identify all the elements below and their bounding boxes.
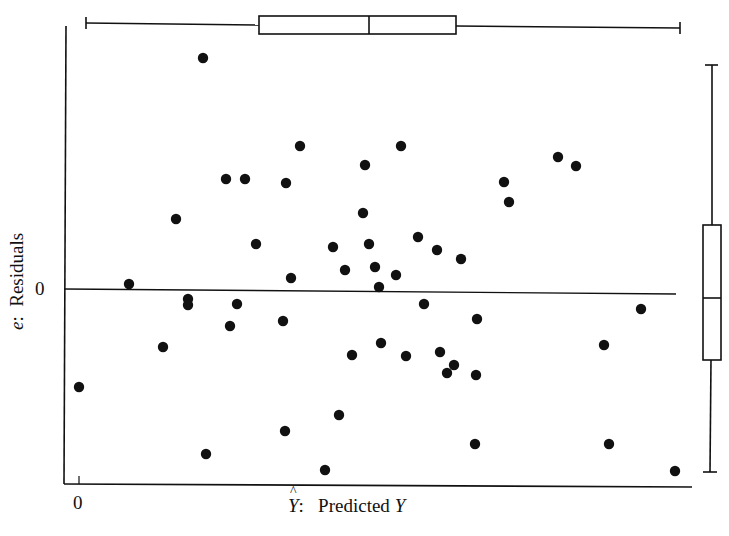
data-point	[419, 299, 429, 309]
y-tick-label-0: 0	[35, 278, 45, 300]
data-point	[221, 174, 231, 184]
data-point	[636, 304, 646, 314]
data-point	[435, 347, 445, 357]
y-axis-symbol: e	[6, 322, 27, 330]
data-point	[171, 214, 181, 224]
x-axis-separator: :	[299, 495, 304, 516]
iqr-box	[703, 225, 721, 360]
data-point	[364, 239, 374, 249]
data-point	[401, 351, 411, 361]
data-point	[286, 273, 296, 283]
data-point	[670, 466, 680, 476]
data-point	[183, 300, 193, 310]
data-point	[74, 382, 84, 392]
x-axis-symbol-hat: Y	[288, 495, 299, 517]
data-point	[295, 141, 305, 151]
data-point	[201, 449, 211, 459]
y-axis-text: Residuals	[6, 233, 27, 307]
x-marginal-boxplot	[86, 16, 680, 34]
residual-scatter-plot	[0, 0, 729, 536]
y-axis-separator: :	[6, 316, 27, 321]
x-axis-label: Y: Predicted Y	[288, 495, 405, 517]
data-point	[124, 279, 134, 289]
data-point	[376, 338, 386, 348]
data-point	[471, 370, 481, 380]
data-point	[281, 178, 291, 188]
y-marginal-boxplot	[703, 65, 721, 472]
data-point	[225, 321, 235, 331]
data-point	[340, 265, 350, 275]
data-point	[456, 254, 466, 264]
data-point	[334, 410, 344, 420]
data-point	[240, 174, 250, 184]
data-point	[358, 208, 368, 218]
whisker-low	[710, 360, 711, 472]
data-point	[158, 342, 168, 352]
data-point	[571, 161, 581, 171]
data-point	[553, 152, 563, 162]
data-point	[449, 360, 459, 370]
data-point	[360, 160, 370, 170]
zero-residual-line	[64, 289, 676, 294]
scatter-points	[74, 53, 680, 476]
data-point	[396, 141, 406, 151]
whisker-high	[456, 26, 680, 28]
x-axis	[64, 484, 692, 487]
data-point	[320, 465, 330, 475]
data-point	[413, 232, 423, 242]
data-point	[470, 439, 480, 449]
data-point	[432, 245, 442, 255]
data-point	[347, 350, 357, 360]
data-point	[280, 426, 290, 436]
data-point	[472, 314, 482, 324]
data-point	[604, 439, 614, 449]
x-axis-text: Predicted	[318, 495, 390, 516]
data-point	[599, 340, 609, 350]
y-axis	[64, 26, 66, 484]
data-point	[370, 262, 380, 272]
data-point	[328, 242, 338, 252]
data-point	[391, 270, 401, 280]
data-point	[198, 53, 208, 63]
data-point	[374, 282, 384, 292]
x-axis-variable: Y	[395, 495, 406, 516]
iqr-box	[259, 16, 456, 34]
y-axis-label: e: Residuals	[6, 180, 36, 330]
data-point	[499, 177, 509, 187]
data-point	[442, 368, 452, 378]
data-point	[504, 197, 514, 207]
whisker-low	[86, 23, 259, 25]
data-point	[251, 239, 261, 249]
x-tick-label-0: 0	[73, 492, 83, 514]
data-point	[278, 316, 288, 326]
data-point	[232, 299, 242, 309]
